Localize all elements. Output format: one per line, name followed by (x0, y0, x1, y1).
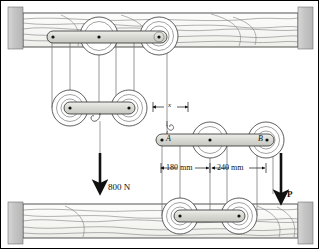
lever-bar-ab (156, 122, 284, 158)
rope-hook-right (167, 121, 174, 135)
force-label-p: P (287, 190, 293, 199)
lower-left-pulley-block-two-sheaves (52, 90, 147, 156)
top-right-wall-support (298, 7, 313, 49)
bottom-left-wall-support (8, 202, 23, 244)
load-label-800n: 800 N (108, 183, 130, 192)
diagram-svg (1, 1, 319, 249)
figure-canvas: A B x 180 mm 240 mm 800 N P (0, 0, 319, 249)
dimension-label-180mm: 180 mm (166, 164, 192, 172)
dimension-label-x: x (168, 102, 171, 109)
point-label-a: A (166, 135, 171, 143)
point-label-b: B (258, 135, 263, 143)
bottom-right-wall-support (298, 202, 313, 244)
rope-lines (52, 40, 273, 216)
dimension-label-240mm: 240 mm (217, 164, 243, 172)
top-left-wall-support (8, 7, 23, 49)
